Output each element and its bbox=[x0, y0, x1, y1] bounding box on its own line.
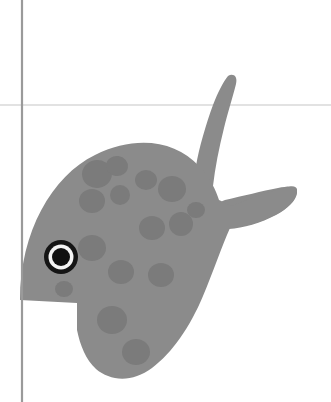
fish-eye-pupil bbox=[52, 248, 70, 266]
image-canvas: fish flat grayscale silhouette with spot… bbox=[0, 0, 331, 402]
fish-illustration bbox=[0, 0, 331, 402]
spot-9 bbox=[78, 235, 106, 261]
spot-6 bbox=[158, 176, 186, 202]
spot-8 bbox=[169, 212, 193, 236]
spot-10 bbox=[108, 260, 134, 284]
spot-5 bbox=[135, 170, 157, 190]
spot-7 bbox=[139, 216, 165, 240]
spot-13 bbox=[122, 339, 150, 365]
spot-11 bbox=[148, 263, 174, 287]
spot-12 bbox=[97, 306, 127, 334]
spot-3 bbox=[79, 189, 105, 213]
spot-14 bbox=[55, 281, 73, 297]
spot-4 bbox=[110, 185, 130, 205]
fish-eye bbox=[44, 240, 78, 274]
spot-15 bbox=[187, 202, 205, 218]
